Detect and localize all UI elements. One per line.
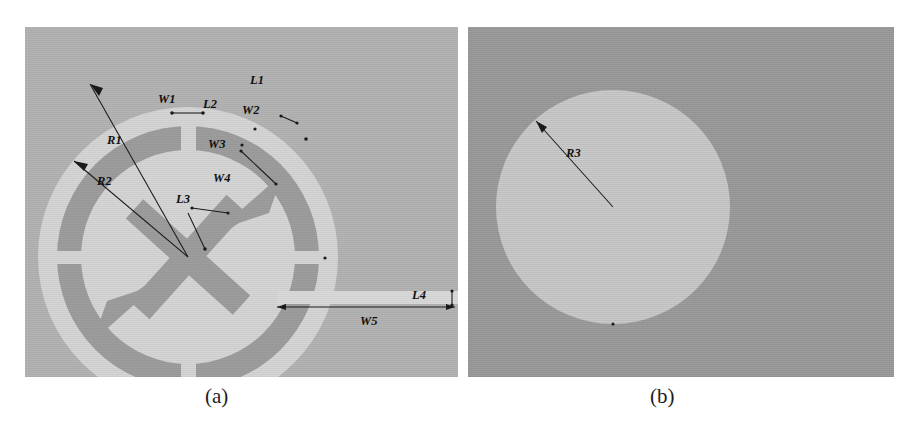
panel-a-drawing <box>25 27 458 377</box>
label-R3: R3 <box>566 146 581 161</box>
tick-W4-b <box>226 211 229 214</box>
tick-ring-right <box>323 256 326 259</box>
tick-L2-a <box>253 127 256 130</box>
label-R2: R2 <box>97 174 112 189</box>
caption-b: (b) <box>650 384 675 409</box>
tick-L4-top <box>450 289 453 292</box>
tick-L1-a <box>279 114 282 117</box>
tick-W3-a <box>239 149 242 152</box>
tick-L2-b <box>240 143 243 146</box>
label-W5: W5 <box>360 314 378 329</box>
microstrip-feed-line <box>277 291 458 304</box>
label-W3: W3 <box>208 137 226 152</box>
tick-L3-end <box>203 247 207 251</box>
caption-a: (a) <box>205 384 228 409</box>
label-L2: L2 <box>203 97 217 112</box>
label-L1: L1 <box>250 73 264 88</box>
bridge-left <box>51 251 97 264</box>
label-L4: L4 <box>412 288 426 303</box>
label-W1: W1 <box>158 92 176 107</box>
panel-a-slotted-ring-patch <box>25 27 458 377</box>
tick-W2 <box>304 137 308 141</box>
tick-disc-bottom <box>611 322 614 325</box>
label-R1: R1 <box>107 133 122 148</box>
panel-b-drawing <box>468 27 894 377</box>
antenna-geometry-figure: R1 R2 L3 W1 L2 L1 W2 W3 W4 L4 W5 R3 (a) … <box>0 0 924 434</box>
leader-L1 <box>281 116 297 123</box>
label-W2: W2 <box>242 103 260 118</box>
tick-W4-a <box>190 206 193 209</box>
bridge-top <box>181 120 196 166</box>
panel-b-ground-disc <box>468 27 894 377</box>
arrowhead-R1 <box>90 84 103 96</box>
tick-W1-left <box>170 111 174 115</box>
label-W4: W4 <box>213 171 231 186</box>
bridge-right <box>279 251 325 264</box>
tick-L1-b <box>295 121 298 124</box>
label-L3: L3 <box>176 192 190 207</box>
tick-W3-b <box>274 182 277 185</box>
tick-L4-bottom <box>450 303 453 306</box>
bridge-bottom <box>181 349 196 377</box>
